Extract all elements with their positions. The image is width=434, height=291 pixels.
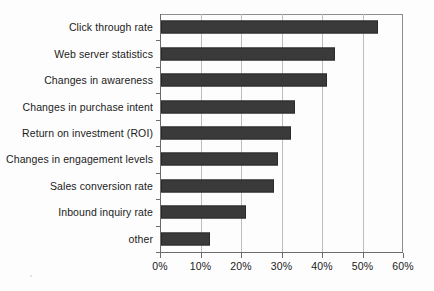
chart-screenshot: Click through rateWeb server statisticsC… [0, 0, 434, 291]
value-axis-line [160, 14, 161, 252]
bar [161, 127, 291, 140]
plot-right-border [402, 14, 403, 252]
value-axis-tick [403, 253, 404, 258]
bar [161, 100, 295, 113]
category-label: Inbound inquiry rate [58, 206, 153, 218]
value-axis-label: 0% [152, 260, 168, 272]
value-axis-label: 40% [311, 260, 333, 272]
category-label: Return on investment (ROI) [22, 127, 153, 139]
value-axis-tick [160, 253, 161, 258]
value-axis-label: 60% [392, 260, 414, 272]
value-axis-label: 30% [271, 260, 293, 272]
bar [161, 179, 274, 192]
value-axis-label: 20% [230, 260, 252, 272]
category-label: Web server statistics [54, 48, 153, 60]
bar [161, 47, 335, 60]
category-label: Changes in awareness [44, 74, 153, 86]
value-axis-tick [363, 253, 364, 258]
value-axis-tick [282, 253, 283, 258]
category-label: Click through rate [69, 21, 153, 33]
category-label: other [129, 233, 153, 245]
category-label: Sales conversion rate [50, 180, 153, 192]
scan-speck [30, 275, 32, 277]
bar [161, 153, 278, 166]
gridline [363, 14, 364, 252]
value-axis-tick [241, 253, 242, 258]
bar [161, 232, 210, 245]
bar [161, 206, 246, 219]
value-axis-label: 50% [352, 260, 374, 272]
value-axis-tick [201, 253, 202, 258]
value-axis-tick [322, 253, 323, 258]
bar [161, 21, 378, 34]
category-label: Changes in engagement levels [6, 153, 153, 165]
plot-area [160, 14, 403, 252]
category-label: Changes in purchase intent [23, 101, 153, 113]
bar [161, 74, 327, 87]
value-axis-label: 10% [190, 260, 212, 272]
